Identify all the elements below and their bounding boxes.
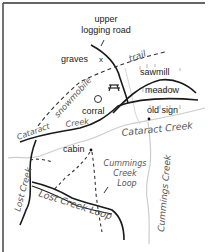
label-cataract-west: Cataract [16, 121, 52, 141]
label-meadow: meadow [145, 85, 180, 95]
label-cummings-creek: Cummings Creek [156, 154, 173, 233]
cabin-marker [90, 149, 93, 152]
cummings-creek-line [147, 122, 151, 244]
label-sawmill: sawmill [140, 67, 170, 77]
label-cummings-loop-3: Loop [117, 179, 136, 188]
label-cataract-creek-east: Cataract Creek [121, 120, 194, 138]
trail-creek-line [125, 68, 140, 124]
cabin-trail-spur [30, 159, 52, 162]
label-upper: upper [94, 14, 117, 24]
label-cabin: cabin [63, 144, 85, 154]
cummings-creek-loop-trail [92, 152, 102, 232]
graves-marker: x [99, 55, 103, 64]
cummings-loop-pointer [104, 187, 108, 193]
old-sign-marker [148, 118, 151, 121]
label-lost-creek-loop: Lost Creek Loop [37, 187, 113, 221]
label-corral: corral [82, 106, 105, 116]
logging-road-pointer [101, 40, 104, 46]
label-creek-west: Creek [65, 117, 90, 129]
label-graves: graves [61, 54, 89, 64]
label-old-sign: old sign [147, 105, 178, 115]
picnic-table-icon [108, 85, 120, 91]
label-cummings-loop-2: Creek [113, 169, 137, 178]
label-logging-road: logging road [81, 25, 131, 35]
trail-map: upper logging road graves x trail sawmil… [0, 0, 210, 252]
label-trail: trail [127, 48, 148, 64]
label-cummings-loop-1: Cummings [104, 159, 147, 168]
map-canvas: upper logging road graves x trail sawmil… [0, 0, 210, 252]
cabin-trail-west [54, 152, 90, 190]
corral-circle-icon [95, 96, 102, 103]
